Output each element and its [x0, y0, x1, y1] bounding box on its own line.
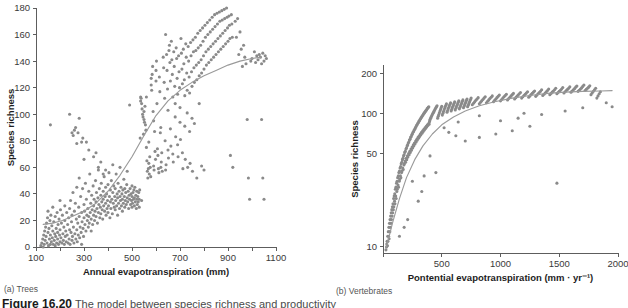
- figure-caption-number: Figure 16.20: [2, 297, 72, 308]
- x-tick-label: 1100: [266, 252, 286, 263]
- y-tick-label: 20: [19, 215, 30, 226]
- figure-caption-text: The model between species richness and p…: [75, 298, 336, 308]
- y-tick-label: 50: [366, 148, 377, 159]
- figure-caption: Figure 16.20 The model between species r…: [2, 297, 626, 308]
- chart-panel-trees: 0204060801001201401601801003005007009001…: [0, 0, 314, 300]
- y-tick-label: 10: [366, 241, 377, 252]
- y-tick-label: 200: [361, 68, 377, 79]
- y-tick-label: 0: [25, 241, 30, 252]
- vertebrates-scatter-plot: 1050100200500100015002000Pontential evap…: [314, 0, 628, 300]
- y-tick-label: 140: [14, 56, 30, 67]
- trend-line: [387, 91, 613, 247]
- panel-a-sublabel: (a) Trees: [4, 284, 38, 294]
- x-tick-label: 1500: [549, 258, 570, 269]
- y-tick-label: 100: [361, 108, 377, 119]
- data-points: [39, 6, 268, 248]
- y-axis-title: Species richness: [5, 89, 16, 167]
- x-axis-title: Pontential evapotranspiration (mm · yr⁻¹…: [408, 272, 594, 283]
- y-axis-title: Species richness: [349, 120, 360, 198]
- x-axis-title: Annual evapotranspiration (mm): [83, 266, 229, 277]
- trend-line: [43, 57, 261, 224]
- figure-container: 0204060801001201401601801003005007009001…: [0, 0, 628, 308]
- x-tick-label: 100: [28, 252, 44, 263]
- x-tick-label: 1000: [490, 258, 511, 269]
- x-tick-label: 900: [220, 252, 236, 263]
- x-tick-label: 2000: [607, 258, 628, 269]
- x-tick-label: 700: [172, 252, 188, 263]
- trees-scatter-plot: 0204060801001201401601801003005007009001…: [0, 0, 314, 300]
- chart-panel-vertebrates: 1050100200500100015002000Pontential evap…: [314, 0, 628, 300]
- panel-b-sublabel: (b) Vertebrates: [336, 286, 392, 296]
- x-tick-label: 300: [76, 252, 92, 263]
- y-tick-label: 100: [14, 109, 30, 120]
- x-tick-label: 500: [434, 258, 450, 269]
- y-tick-label: 40: [19, 188, 30, 199]
- x-tick-label: 500: [124, 252, 140, 263]
- y-tick-label: 80: [19, 135, 30, 146]
- y-tick-label: 160: [14, 29, 30, 40]
- y-tick-label: 60: [19, 162, 30, 173]
- y-tick-label: 180: [14, 2, 30, 13]
- axis-lines: [36, 8, 276, 247]
- data-points: [384, 83, 613, 251]
- y-tick-label: 120: [14, 82, 30, 93]
- axis-lines: [383, 65, 618, 253]
